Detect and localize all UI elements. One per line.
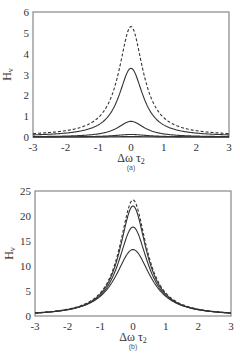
y-tick-label: 4 (24, 48, 30, 60)
figure: 0123456-3-2-10123Δω τ2Hv(a) 0510152025-3… (0, 0, 240, 361)
x-tick-label: -2 (63, 320, 72, 332)
y-tick-label: 5 (26, 285, 32, 297)
y-tick-label: 2 (24, 89, 30, 101)
x-tick-label: -3 (28, 141, 38, 153)
x-tick-label: 3 (228, 320, 234, 332)
plot-frame (33, 12, 229, 137)
y-tick-label: 3 (24, 69, 30, 81)
y-tick-label: 10 (20, 260, 32, 272)
y-tick-label: 1 (24, 110, 30, 122)
curve-solid-3 (35, 250, 231, 314)
y-axis-label: Hv (0, 68, 15, 81)
x-tick-label: -1 (94, 141, 103, 153)
curve-dashed (35, 200, 231, 313)
curve-solid-2 (35, 227, 231, 313)
chart-panel-b: 0510152025-3-2-10123Δω τ2Hv(b) (2, 185, 234, 351)
plot-frame (35, 191, 231, 316)
x-tick-label: 1 (163, 320, 169, 332)
x-tick-label: -2 (61, 141, 70, 153)
x-tick-label: 3 (226, 141, 232, 153)
x-tick-label: -1 (96, 320, 105, 332)
panel-caption: (b) (129, 343, 138, 351)
x-tick-label: 2 (196, 320, 202, 332)
curve-dashed (33, 27, 229, 134)
x-tick-label: 1 (161, 141, 167, 153)
curve-solid-1 (33, 68, 229, 135)
y-tick-label: 5 (24, 27, 30, 39)
curve-solid-1 (35, 206, 231, 313)
y-tick-label: 25 (20, 185, 32, 197)
chart-panel-a: 0123456-3-2-10123Δω τ2Hv(a) (0, 6, 232, 172)
x-tick-label: 2 (194, 141, 200, 153)
x-tick-label: -3 (30, 320, 40, 332)
y-tick-label: 15 (20, 235, 32, 247)
y-tick-label: 20 (20, 210, 32, 222)
y-tick-label: 6 (24, 6, 30, 18)
panel-caption: (a) (127, 164, 136, 172)
y-axis-label: Hv (2, 247, 17, 260)
